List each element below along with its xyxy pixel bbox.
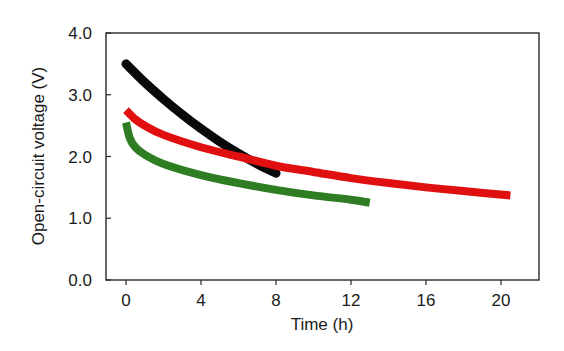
x-tick-label: 0 [121,291,130,310]
x-axis-title: Time (h) [291,315,354,334]
y-tick-label: 0.0 [68,271,92,290]
y-axis-title: Open-circuit voltage (V) [29,67,48,246]
y-tick-label: 4.0 [68,24,92,43]
x-tick-label: 20 [492,291,511,310]
x-tick-label: 16 [417,291,436,310]
plot-frame [106,33,539,280]
x-tick-label: 12 [342,291,361,310]
y-tick-label: 2.0 [68,148,92,167]
x-tick-label: 4 [196,291,205,310]
series-layer [126,64,510,203]
y-tick-label: 3.0 [68,86,92,105]
x-tick-label: 8 [271,291,280,310]
chart-figure: 0.01.02.03.04.0 048121620 Time (h) Open-… [0,0,564,351]
series-line-red [126,110,510,195]
y-tick-label: 1.0 [68,209,92,228]
y-axis-ticks: 0.01.02.03.04.0 [68,24,111,290]
x-axis-ticks: 048121620 [121,280,510,310]
